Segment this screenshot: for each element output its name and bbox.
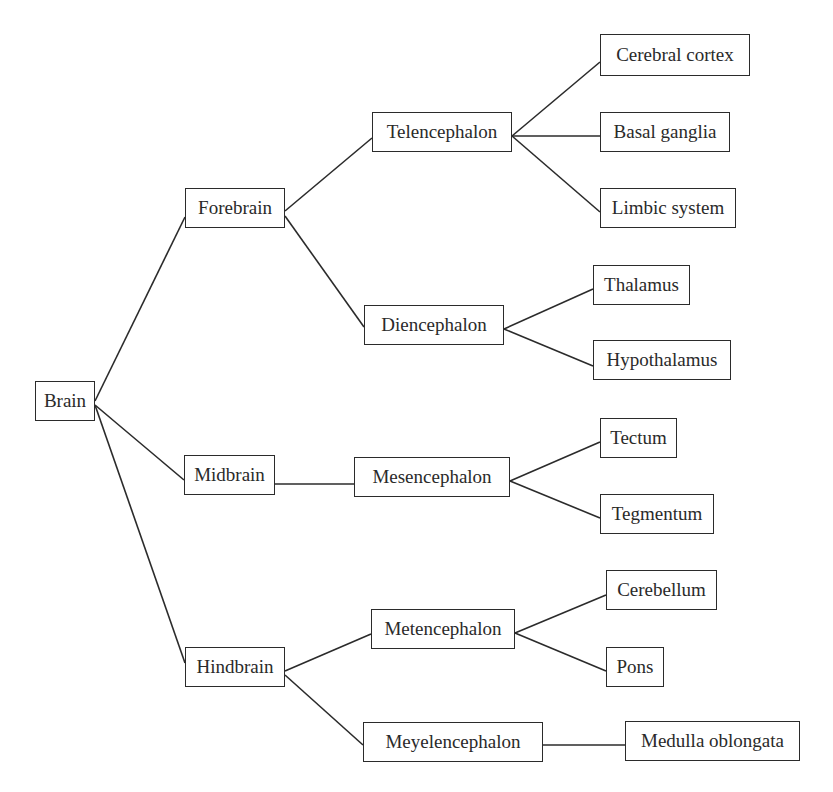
node-label: Tegmentum: [612, 503, 702, 525]
node-meyelencephalon: Meyelencephalon: [363, 722, 543, 762]
node-midbrain: Midbrain: [184, 455, 275, 495]
edge-brain-to-forebrain: [95, 217, 185, 401]
node-cerebral-cortex: Cerebral cortex: [600, 34, 750, 76]
node-label: Pons: [617, 656, 654, 678]
node-pons: Pons: [606, 647, 664, 687]
node-tegmentum: Tegmentum: [600, 494, 714, 534]
edge-diencephalon-to-hypothalamus: [504, 329, 593, 366]
node-mesencephalon: Mesencephalon: [354, 457, 510, 497]
edge-hindbrain-to-meyelencephalon: [285, 675, 363, 745]
node-hindbrain: Hindbrain: [185, 647, 285, 687]
node-label: Mesencephalon: [372, 466, 491, 488]
node-label: Metencephalon: [384, 618, 501, 640]
edge-mesencephalon-to-tectum: [510, 442, 600, 481]
edge-metencephalon-to-pons: [515, 633, 606, 671]
node-label: Hypothalamus: [607, 349, 718, 371]
edge-forebrain-to-telencephalon: [285, 138, 372, 211]
node-metencephalon: Metencephalon: [371, 609, 515, 649]
edge-telencephalon-to-cerebral-cortex: [512, 62, 600, 136]
brain-hierarchy-diagram: Brain Forebrain Midbrain Hindbrain Telen…: [0, 0, 833, 792]
edge-diencephalon-to-thalamus: [504, 289, 593, 329]
node-thalamus: Thalamus: [593, 265, 690, 305]
node-medulla-oblongata: Medulla oblongata: [625, 721, 800, 761]
node-tectum: Tectum: [600, 418, 677, 458]
node-basal-ganglia: Basal ganglia: [600, 112, 730, 152]
node-label: Hindbrain: [196, 656, 273, 678]
node-label: Cerebellum: [617, 579, 706, 601]
node-label: Thalamus: [604, 274, 679, 296]
node-label: Forebrain: [198, 197, 272, 219]
edge-telencephalon-to-limbic-system: [512, 136, 600, 212]
edge-hindbrain-to-metencephalon: [285, 634, 371, 671]
node-label: Basal ganglia: [614, 121, 717, 143]
node-forebrain: Forebrain: [185, 188, 285, 228]
node-label: Cerebral cortex: [616, 44, 734, 66]
node-label: Tectum: [610, 427, 667, 449]
edge-mesencephalon-to-tegmentum: [510, 481, 600, 518]
edge-metencephalon-to-cerebellum: [515, 595, 606, 633]
node-limbic-system: Limbic system: [600, 188, 736, 228]
node-label: Limbic system: [612, 197, 724, 219]
node-label: Meyelencephalon: [385, 731, 520, 753]
node-telencephalon: Telencephalon: [372, 112, 512, 152]
node-hypothalamus: Hypothalamus: [593, 340, 731, 380]
node-label: Midbrain: [194, 464, 265, 486]
node-cerebellum: Cerebellum: [606, 570, 717, 610]
node-brain: Brain: [35, 381, 95, 421]
node-label: Brain: [44, 390, 86, 412]
node-diencephalon: Diencephalon: [364, 305, 504, 345]
edge-forebrain-to-diencephalon: [285, 216, 364, 327]
node-label: Medulla oblongata: [641, 730, 784, 752]
node-label: Telencephalon: [387, 121, 498, 143]
node-label: Diencephalon: [381, 314, 487, 336]
